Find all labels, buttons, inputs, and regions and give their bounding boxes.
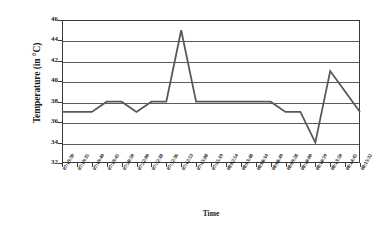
y-tick-label-36: 36 (32, 118, 58, 125)
y-tick-label-42: 42 (32, 57, 58, 64)
x-tick-label: 08:15:32 (359, 153, 373, 171)
temperature-line-chart: Temperature (in °C) 3234363840424446 07:… (0, 0, 378, 231)
y-tick-label-32: 32 (32, 159, 58, 166)
y-tick-label-38: 38 (32, 98, 58, 105)
y-tick-label-46: 46 (32, 16, 58, 23)
y-tick-label-44: 44 (32, 36, 58, 43)
y-tick-label-34: 34 (32, 139, 58, 146)
data-line (62, 30, 360, 142)
x-axis-title: Time (62, 209, 360, 218)
series-line-temperature (62, 20, 360, 163)
y-tick-label-40: 40 (32, 77, 58, 84)
